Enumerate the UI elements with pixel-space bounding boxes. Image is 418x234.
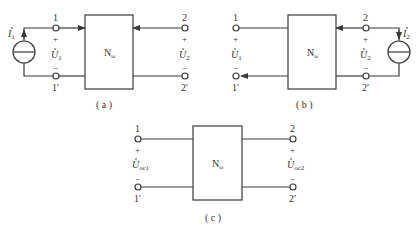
plus-sign: + <box>233 34 238 44</box>
voltage-label-u1: U1 <box>51 49 62 62</box>
terminal-2 <box>290 136 296 142</box>
terminal-1prime <box>233 73 239 79</box>
plus-sign: + <box>135 145 140 155</box>
voltage-label-uoc1: Uoc1 <box>132 159 150 172</box>
terminal-2prime <box>363 73 369 79</box>
caption-a: ( a ) <box>96 99 112 111</box>
terminal-1 <box>233 25 239 31</box>
terminal-2prime-label: 2′ <box>362 82 369 93</box>
current-label-i1: I1 <box>7 28 15 41</box>
terminal-2prime <box>182 73 188 79</box>
wire <box>24 63 53 76</box>
two-port-network-diagram: 1 + U1 − 1′ I1 Nω 2 + U2 − 2′ ( a ) 1 + … <box>0 0 418 234</box>
terminal-1prime <box>53 73 59 79</box>
plus-sign: + <box>363 34 368 44</box>
terminal-1-label: 1 <box>233 12 238 23</box>
terminal-2prime-label: 2′ <box>289 193 296 204</box>
phasor-dots <box>11 27 408 160</box>
panel-b <box>233 15 410 89</box>
voltage-label-u2: U2 <box>179 49 190 62</box>
terminal-1prime-label: 1′ <box>52 82 59 93</box>
voltage-label-u2: U2 <box>360 49 371 62</box>
wire <box>24 28 53 41</box>
terminal-1-label: 1 <box>135 123 140 134</box>
terminal-2-label: 2 <box>182 12 187 23</box>
minus-sign: − <box>233 63 238 73</box>
voltage-label-u1: U1 <box>231 49 242 62</box>
current-label-i2: I2 <box>402 28 410 41</box>
minus-sign: − <box>53 63 58 73</box>
terminal-2 <box>363 25 369 31</box>
terminal-2-label: 2 <box>290 123 295 134</box>
network-label: Nω <box>212 158 223 170</box>
plus-sign: + <box>182 34 187 44</box>
terminal-1prime-label: 1′ <box>232 82 239 93</box>
network-label: Nω <box>104 47 115 59</box>
panel-a <box>13 15 188 89</box>
terminal-1 <box>135 136 141 142</box>
panel-b-labels: 1 + U1 − 1′ Nω 2 + U2 − 2′ I2 ( b ) <box>231 12 410 111</box>
terminal-1prime-label: 1′ <box>134 193 141 204</box>
plus-sign: + <box>290 145 295 155</box>
caption-c: ( c ) <box>205 212 221 224</box>
terminal-1 <box>53 25 59 31</box>
terminal-1prime <box>135 184 141 190</box>
minus-sign: − <box>135 174 140 184</box>
current-source-icon <box>388 41 410 63</box>
panel-c-labels: 1 + Uoc1 − 1′ Nω 2 + Uoc2 − 2′ ( c ) <box>132 123 305 224</box>
terminal-2prime-label: 2′ <box>181 82 188 93</box>
terminal-1-label: 1 <box>53 12 58 23</box>
voltage-label-uoc2: Uoc2 <box>287 159 305 172</box>
panel-a-labels: 1 + U1 − 1′ I1 Nω 2 + U2 − 2′ ( a ) <box>7 12 190 111</box>
terminal-2 <box>182 25 188 31</box>
plus-sign: + <box>53 34 58 44</box>
network-label: Nω <box>307 47 318 59</box>
minus-sign: − <box>290 174 295 184</box>
terminal-2prime <box>290 184 296 190</box>
terminal-2-label: 2 <box>363 12 368 23</box>
minus-sign: − <box>182 63 187 73</box>
minus-sign: − <box>363 63 368 73</box>
caption-b: ( b ) <box>296 99 313 111</box>
current-source-icon <box>13 41 35 63</box>
